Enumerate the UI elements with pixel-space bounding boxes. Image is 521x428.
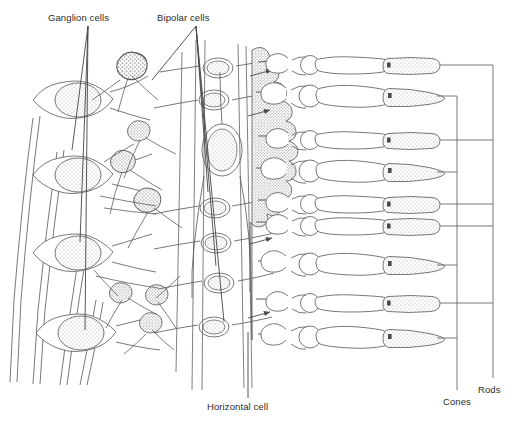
diagram-canvas [0, 0, 521, 428]
label-cones: Cones [443, 396, 471, 407]
bipolar-cell-body [204, 273, 234, 293]
bipolar-cell-body [200, 198, 230, 218]
label-ganglion-cells: Ganglion cells [48, 12, 109, 23]
bipolar-cell-body [199, 317, 229, 337]
retina-diagram: Ganglion cells Bipolar cells Horizontal … [0, 0, 521, 428]
bipolar-cell-body [203, 58, 233, 78]
label-horizontal-cell: Horizontal cell [207, 401, 268, 412]
label-rods: Rods [478, 384, 501, 395]
label-bipolar-cells: Bipolar cells [157, 12, 210, 23]
